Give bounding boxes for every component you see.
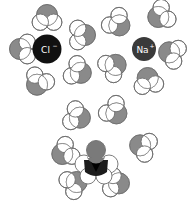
ion: Cl−	[33, 35, 62, 64]
water-molecule	[63, 56, 91, 85]
sodium-cluster: Na+	[98, 0, 187, 95]
water-molecule	[134, 68, 164, 95]
central-water-molecule	[75, 141, 118, 185]
ion-charge: −	[52, 42, 57, 49]
water-molecule	[98, 95, 127, 124]
water-molecule	[32, 5, 62, 31]
water-molecule	[98, 54, 126, 82]
water-molecule	[10, 34, 36, 64]
water-molecule	[130, 133, 158, 162]
top-water-oxygen	[87, 141, 106, 160]
ion-symbol: Na	[136, 45, 148, 55]
ion: Na+	[132, 37, 156, 61]
water-molecule	[159, 40, 187, 69]
water-molecule	[70, 20, 96, 50]
water-molecule	[63, 101, 91, 130]
ion-charge: +	[149, 42, 154, 49]
hydration-diagram: Cl− Na+	[0, 0, 189, 201]
water-molecule	[148, 0, 176, 28]
ion-symbol: Cl	[41, 45, 50, 55]
water-molecule	[26, 67, 54, 95]
water-molecule	[101, 7, 130, 36]
water-cluster	[52, 95, 158, 199]
chloride-cluster: Cl−	[10, 5, 96, 96]
